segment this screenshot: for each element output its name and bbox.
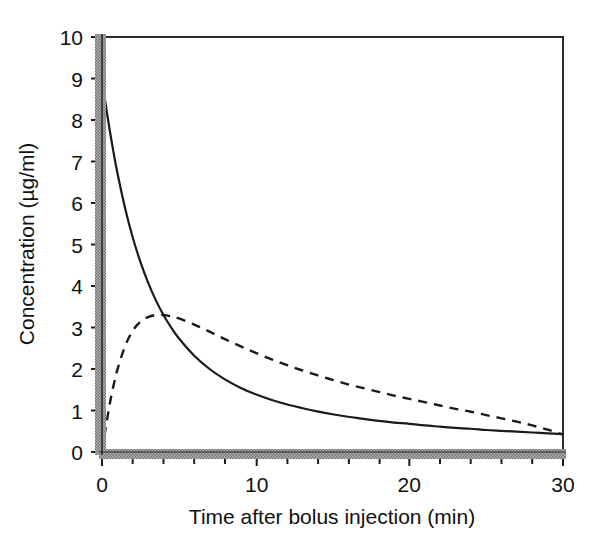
y-tick-label: 5 [71, 234, 83, 257]
y-tick-label: 7 [71, 151, 83, 174]
x-tick-label: 10 [245, 473, 268, 496]
y-tick-label: 6 [71, 192, 83, 215]
y-tick-label: 4 [71, 275, 83, 298]
chart-figure: 10 9 8 7 6 5 4 3 2 1 0 0 10 20 30 Time a… [0, 0, 600, 538]
y-axis-title: Concentration (µg/ml) [15, 143, 38, 345]
x-tick-labels: 0 10 20 30 [96, 473, 575, 496]
left-axis-stipple-band [95, 34, 106, 455]
y-tick-label: 2 [71, 358, 83, 381]
x-axis-title: Time after bolus injection (min) [189, 505, 475, 528]
bottom-axis-stipple-band [99, 449, 566, 459]
y-tick-label: 9 [71, 68, 83, 91]
x-tick-label: 20 [398, 473, 421, 496]
concentration-time-plot: 10 9 8 7 6 5 4 3 2 1 0 0 10 20 30 Time a… [0, 0, 600, 538]
y-tick-label: 1 [71, 400, 83, 423]
y-tick-label: 10 [60, 26, 83, 49]
x-tick-label: 0 [96, 473, 108, 496]
y-tick-label: 0 [71, 441, 83, 464]
x-tick-label: 30 [551, 473, 574, 496]
y-tick-label: 8 [71, 109, 83, 132]
y-tick-labels: 10 9 8 7 6 5 4 3 2 1 0 [60, 26, 84, 464]
y-tick-label: 3 [71, 317, 83, 340]
plot-background [102, 37, 563, 452]
